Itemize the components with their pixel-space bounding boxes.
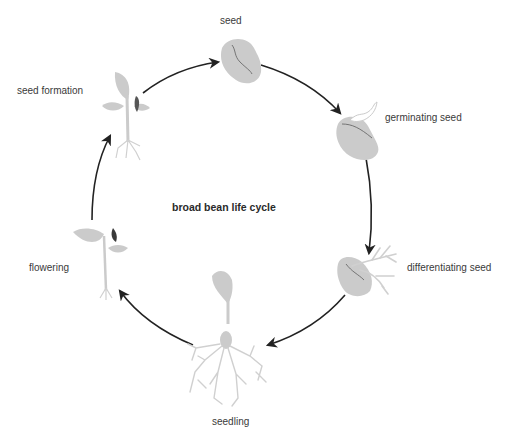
stage-label-germinating-seed: germinating seed: [385, 112, 462, 123]
stage-label-flowering: flowering: [29, 262, 69, 273]
stage-label-seed: seed: [220, 15, 242, 26]
stage-label-seed-formation: seed formation: [17, 85, 83, 96]
arrow-seed-formation-to-seed: [143, 62, 218, 93]
seedling-illustration: [188, 271, 266, 406]
arrow-differentiating-to-seedling: [268, 295, 345, 345]
life-cycle-diagram: [0, 0, 512, 443]
arrow-germinating-to-differentiating: [366, 158, 371, 253]
germinating-seed-illustration: [336, 102, 378, 160]
seed-illustration: [221, 39, 261, 83]
stage-label-differentiating-seed: differentiating seed: [407, 262, 491, 273]
arrow-seed-to-germinating: [261, 65, 340, 113]
differentiating-seed-illustration: [337, 246, 396, 296]
arrow-seedling-to-flowering: [120, 291, 193, 345]
arrow-flowering-to-seed-formation: [92, 136, 110, 220]
seed-formation-illustration: [102, 72, 150, 160]
stage-label-seedling: seedling: [212, 416, 249, 427]
diagram-title: broad bean life cycle: [172, 201, 276, 213]
flowering-illustration: [73, 228, 128, 300]
